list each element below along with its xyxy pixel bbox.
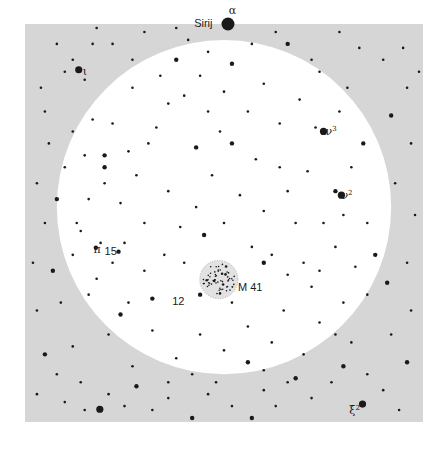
- cluster-star: [233, 276, 235, 278]
- star: [246, 360, 250, 364]
- cluster-star: [233, 284, 235, 286]
- cluster-star: [208, 285, 210, 287]
- star: [361, 141, 365, 145]
- cluster-star: [209, 276, 211, 278]
- star: [194, 145, 198, 149]
- cluster-star: [222, 264, 224, 266]
- star: [341, 364, 345, 368]
- star: [147, 142, 150, 145]
- star: [143, 31, 146, 34]
- cluster-m41: [200, 260, 238, 298]
- star: [123, 242, 126, 245]
- star: [270, 254, 273, 257]
- star: [223, 222, 226, 225]
- cluster-star: [214, 271, 216, 273]
- bright-star-xi2: [359, 400, 366, 407]
- cluster-star: [232, 280, 234, 282]
- star: [64, 166, 67, 169]
- cluster-star: [218, 290, 220, 292]
- label-sirius: Sirij: [194, 17, 212, 29]
- star: [71, 130, 74, 133]
- star: [118, 312, 122, 316]
- star: [410, 309, 413, 312]
- star: [174, 58, 178, 62]
- star: [155, 126, 158, 129]
- cluster-star: [222, 283, 225, 286]
- star: [230, 62, 234, 66]
- star: [75, 222, 78, 225]
- star: [215, 381, 218, 384]
- star: [102, 153, 106, 157]
- star: [207, 51, 210, 54]
- star: [402, 47, 405, 50]
- star: [306, 170, 309, 173]
- star: [263, 82, 266, 85]
- star: [134, 384, 138, 388]
- star: [207, 110, 210, 113]
- star: [274, 405, 277, 408]
- cluster-star: [214, 279, 216, 281]
- star: [95, 27, 98, 30]
- star: [239, 194, 242, 197]
- cluster-star: [218, 266, 220, 268]
- star: [398, 409, 401, 412]
- star: [318, 70, 321, 73]
- star: [202, 233, 206, 237]
- cluster-star: [203, 279, 205, 281]
- star: [366, 222, 369, 225]
- star: [318, 321, 321, 324]
- star: [44, 110, 47, 113]
- star: [286, 273, 289, 276]
- star: [87, 293, 90, 296]
- star: [382, 59, 385, 62]
- star: [195, 206, 198, 209]
- star: [322, 222, 325, 225]
- cluster-star: [217, 269, 219, 271]
- cluster-star: [226, 271, 228, 273]
- star: [278, 122, 281, 125]
- star: [231, 301, 234, 304]
- star: [123, 405, 126, 408]
- star: [167, 381, 170, 384]
- star: [135, 174, 138, 177]
- star: [310, 59, 313, 62]
- star: [302, 353, 305, 356]
- star: [406, 262, 409, 265]
- star: [55, 197, 59, 201]
- star: [102, 165, 106, 169]
- star: [302, 262, 305, 265]
- cluster-star: [222, 281, 224, 283]
- star: [43, 352, 47, 356]
- star: [318, 269, 321, 272]
- star: [143, 222, 146, 225]
- star-chart: αSirijιν3ν2π15M 4112ξ2: [0, 0, 447, 449]
- star: [278, 166, 281, 169]
- star: [247, 110, 250, 113]
- star: [366, 293, 369, 296]
- star: [36, 309, 39, 312]
- star: [167, 102, 170, 105]
- cluster-star: [228, 272, 230, 274]
- cluster-star: [207, 279, 209, 281]
- cluster-star: [215, 275, 217, 277]
- star: [199, 333, 202, 336]
- star: [190, 416, 194, 420]
- cluster-star: [231, 278, 233, 280]
- star: [255, 158, 258, 161]
- star: [71, 59, 74, 62]
- cluster-star: [229, 278, 231, 280]
- bright-star-bottom-left-bright: [96, 406, 103, 413]
- star: [111, 122, 114, 125]
- cluster-star: [208, 275, 210, 277]
- star: [406, 86, 409, 89]
- star: [127, 150, 130, 153]
- star: [385, 281, 389, 285]
- cluster-star: [215, 282, 217, 284]
- star: [83, 409, 86, 412]
- cluster-star: [216, 293, 218, 295]
- cluster-star: [215, 274, 217, 276]
- bright-star-sirius: [221, 18, 234, 31]
- star: [390, 333, 393, 336]
- star: [60, 301, 63, 304]
- star: [346, 86, 349, 89]
